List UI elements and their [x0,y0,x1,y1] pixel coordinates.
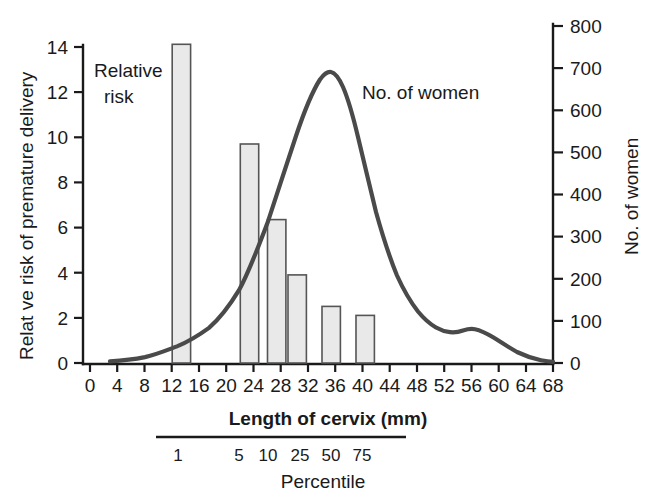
percentile-label: 1 [173,446,182,465]
right-ticklabel: 600 [570,100,602,121]
x-ticklabel: 52 [434,375,455,396]
bar-relative-risk [356,315,374,363]
relative-risk-annotation-line2: risk [104,86,134,107]
right-axis-ticklabels: 800 700 600 500 400 300 200 100 0 [570,16,602,374]
x-axis-title: Length of cervix (mm) [229,408,427,429]
x-ticklabel: 68 [542,375,563,396]
x-axis-ticklabels: 0 4 8 12 16 20 24 28 32 36 40 44 48 52 5… [85,375,564,396]
x-ticklabel: 64 [515,375,537,396]
x-ticklabel: 12 [161,375,182,396]
left-axis-title: Relat ve risk of premature delivery [16,71,37,360]
percentile-label: 10 [259,446,278,465]
left-ticklabel: 0 [57,353,68,374]
left-ticklabel: 8 [57,172,68,193]
left-ticklabel: 12 [47,82,68,103]
x-ticklabel: 44 [379,375,401,396]
left-ticklabel: 6 [57,217,68,238]
right-axis-title: No. of women [621,138,642,255]
x-ticklabel: 40 [352,375,373,396]
right-ticklabel: 700 [570,58,602,79]
x-ticklabel: 36 [325,375,346,396]
bar-relative-risk [322,306,340,363]
no-of-women-annotation: No. of women [362,82,479,103]
relative-risk-annotation-line1: Relative [94,60,163,81]
chart-svg: 14 12 10 8 6 4 2 0 800 700 600 500 400 [0,0,646,494]
right-ticklabel: 800 [570,16,602,37]
right-ticklabel: 300 [570,226,602,247]
left-ticklabel: 14 [47,37,69,58]
x-ticklabel: 32 [297,375,318,396]
x-ticklabel: 24 [243,375,265,396]
percentile-scale: 1 5 10 25 50 75 Percentile [156,437,406,492]
percentile-label: 75 [353,446,372,465]
percentile-label: 5 [234,446,243,465]
x-ticklabel: 0 [85,375,96,396]
bar-relative-risk [172,44,190,363]
x-ticklabel: 60 [488,375,509,396]
x-ticklabel: 28 [270,375,291,396]
left-ticklabel: 10 [47,127,68,148]
left-axis-ticklabels: 14 12 10 8 6 4 2 0 [47,37,69,374]
right-ticklabel: 200 [570,269,602,290]
left-ticklabel: 2 [57,308,68,329]
x-ticklabel: 4 [112,375,123,396]
percentile-caption: Percentile [281,471,366,492]
right-ticklabel: 0 [570,353,581,374]
right-ticklabel: 100 [570,311,602,332]
x-ticklabel: 56 [461,375,482,396]
right-axis-ticks [553,26,563,363]
inline-annotations: Relative risk No. of women [94,60,479,107]
percentile-label: 25 [291,446,310,465]
bar-relative-risk [288,275,306,363]
percentile-label: 50 [322,446,341,465]
x-ticklabel: 8 [139,375,150,396]
right-ticklabel: 400 [570,184,602,205]
left-axis-ticks [74,47,83,363]
chart-figure: 14 12 10 8 6 4 2 0 800 700 600 500 400 [0,0,646,494]
x-ticklabel: 16 [188,375,209,396]
bar-relative-risk [268,220,286,363]
right-ticklabel: 500 [570,142,602,163]
x-ticklabel: 20 [216,375,237,396]
x-ticklabel: 48 [406,375,427,396]
left-ticklabel: 4 [57,263,68,284]
